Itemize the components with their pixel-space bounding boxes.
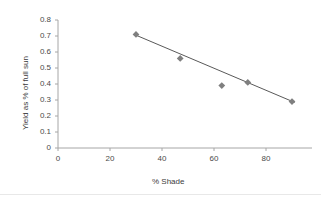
x-axis-tick-label: 0 bbox=[46, 155, 70, 163]
x-axis-tick-label: 40 bbox=[150, 155, 174, 163]
y-axis-tick-label: 0.6 bbox=[29, 48, 51, 56]
y-axis-title: Yield as % of full sun bbox=[22, 56, 30, 130]
x-axis-tick-label: 20 bbox=[98, 155, 122, 163]
data-point-marker bbox=[244, 79, 251, 86]
y-axis-tick-label: 0.4 bbox=[29, 80, 51, 88]
page-rule-divider bbox=[0, 194, 321, 195]
data-point-marker bbox=[289, 98, 296, 105]
trendline-segment bbox=[136, 35, 295, 102]
x-axis-title: % Shade bbox=[152, 178, 184, 186]
data-point-marker bbox=[133, 31, 140, 38]
y-axis-tick-label: 0 bbox=[29, 144, 51, 152]
trendline bbox=[136, 35, 295, 102]
y-axis-tick-label: 0.3 bbox=[29, 96, 51, 104]
y-axis-tick-label: 0.7 bbox=[29, 32, 51, 40]
x-axis-tick-label: 60 bbox=[202, 155, 226, 163]
data-point-marker bbox=[218, 82, 225, 89]
y-axis-tick-label: 0.1 bbox=[29, 128, 51, 136]
x-axis-tick-label: 80 bbox=[254, 155, 278, 163]
y-axis-tick-label: 0.2 bbox=[29, 112, 51, 120]
y-axis-tick-label: 0.5 bbox=[29, 64, 51, 72]
y-axis-tick-label: 0.8 bbox=[29, 16, 51, 24]
data-point-marker bbox=[177, 55, 184, 62]
chart-container: 00.10.20.30.40.50.60.70.8 020406080 Yiel… bbox=[0, 0, 321, 203]
